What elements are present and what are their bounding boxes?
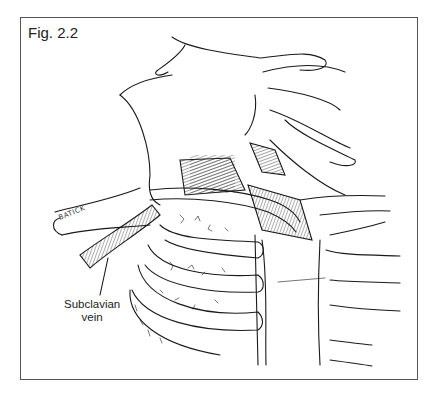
rib-1: [160, 225, 263, 258]
rib-3: [132, 265, 263, 330]
annotation-subclavian-vein: Subclavian vein: [64, 298, 120, 324]
subclavian-vein: [80, 205, 160, 268]
sternum: [255, 235, 258, 365]
annotation-line-2: vein: [64, 311, 120, 324]
fingers: [263, 66, 345, 72]
anatomical-illustration: [0, 0, 437, 395]
annotation-line-1: Subclavian: [64, 298, 120, 311]
